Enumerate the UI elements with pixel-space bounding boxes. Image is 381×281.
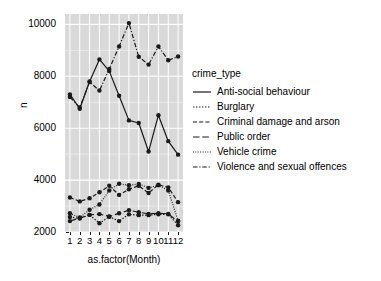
legend-item-label: Anti-social behaviour [217, 86, 310, 98]
x-tick-label: 6 [116, 236, 121, 246]
x-tick-mark [149, 232, 150, 235]
legend-key-line-icon [192, 86, 212, 98]
x-tick-label: 3 [87, 236, 92, 246]
x-axis-title: as.factor(Month) [65, 254, 183, 265]
legend-item-5[interactable]: Vehicle crime [192, 144, 380, 159]
x-tick-label: 2 [77, 236, 82, 246]
x-tick-mark [129, 232, 130, 235]
x-tick-mark [119, 232, 120, 235]
x-tick-label: 8 [136, 236, 141, 246]
legend-key-line-icon [192, 101, 212, 113]
x-tick-mark [99, 232, 100, 235]
x-tick-label: 11 [163, 236, 173, 246]
legend-item-label: Vehicle crime [217, 146, 276, 158]
x-tick-mark [109, 232, 110, 235]
legend: crime_type Anti-social behaviourBurglary… [192, 68, 380, 174]
x-tick-mark [168, 232, 169, 235]
legend-items: Anti-social behaviourBurglaryCriminal da… [192, 84, 380, 174]
chart-root: n 200040006000800010000 123456789101112 … [0, 0, 381, 281]
legend-item-label: Criminal damage and arson [217, 116, 340, 128]
legend-item-label: Violence and sexual offences [217, 161, 347, 173]
x-tick-label: 7 [126, 236, 131, 246]
x-tick-mark [80, 232, 81, 235]
x-tick-label: 9 [146, 236, 151, 246]
legend-item-6[interactable]: Violence and sexual offences [192, 159, 380, 174]
x-tick-mark [178, 232, 179, 235]
x-tick-mark [139, 232, 140, 235]
legend-item-4[interactable]: Public order [192, 129, 380, 144]
legend-item-label: Public order [217, 131, 270, 143]
legend-item-label: Burglary [217, 101, 254, 113]
legend-key-line-icon [192, 161, 212, 173]
legend-key-line-icon [192, 146, 212, 158]
legend-item-2[interactable]: Burglary [192, 99, 380, 114]
x-tick-label: 10 [153, 236, 164, 246]
x-tick-mark [70, 232, 71, 235]
legend-key-line-icon [192, 131, 212, 143]
legend-key-line-icon [192, 116, 212, 128]
x-tick-label: 12 [173, 236, 184, 246]
legend-title: crime_type [192, 68, 380, 79]
x-tick-label: 5 [107, 236, 112, 246]
legend-item-3[interactable]: Criminal damage and arson [192, 114, 380, 129]
x-tick-mark [90, 232, 91, 235]
x-tick-mark [158, 232, 159, 235]
legend-item-1[interactable]: Anti-social behaviour [192, 84, 380, 99]
x-tick-label: 1 [67, 236, 72, 246]
x-tick-label: 4 [97, 236, 102, 246]
